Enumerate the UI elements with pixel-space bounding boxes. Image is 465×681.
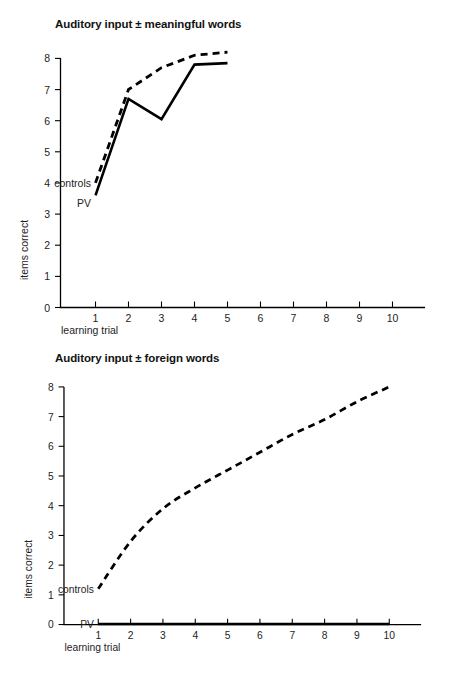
x-tick-10: 10 xyxy=(387,312,399,324)
y-tick-5: 5 xyxy=(48,471,54,482)
y-tick-2: 2 xyxy=(44,239,50,251)
series-controls-bottom xyxy=(98,387,389,589)
y-tick-7: 7 xyxy=(48,412,54,423)
y-tick-4: 4 xyxy=(48,501,54,512)
panel-foreign-words: Auditory input ± foreign words 0 1 2 3 4 xyxy=(0,334,465,681)
y-tick-labels-bottom: 0 1 2 3 4 5 6 7 8 xyxy=(48,382,54,631)
y-tick-1: 1 xyxy=(48,590,54,601)
y-tick-5: 5 xyxy=(44,146,50,158)
x-tick-10: 10 xyxy=(384,630,396,641)
y-axis-label-bottom: items correct xyxy=(23,540,34,599)
x-tick-6: 6 xyxy=(258,312,264,324)
y-tick-7: 7 xyxy=(44,84,50,96)
series-pv-top xyxy=(96,63,228,195)
y-tick-2: 2 xyxy=(48,560,54,571)
y-tick-6: 6 xyxy=(48,441,54,452)
x-tick-6: 6 xyxy=(257,630,263,641)
figure-two-panel-line-charts: Auditory input ± meaningful words 0 1 2 xyxy=(0,0,465,681)
y-tick-8: 8 xyxy=(44,52,50,64)
y-tick-labels-top: 0 1 2 3 4 5 6 7 8 xyxy=(44,52,50,313)
x-tick-7: 7 xyxy=(289,630,295,641)
x-tick-1: 1 xyxy=(93,312,99,324)
plot-bottom: 0 1 2 3 4 5 6 7 8 xyxy=(0,334,465,674)
y-tick-6: 6 xyxy=(44,115,50,127)
series-label-controls-top: controls xyxy=(54,177,91,189)
x-tick-labels-bottom: 1 2 3 4 5 6 7 8 9 10 xyxy=(95,630,395,641)
y-tick-0: 0 xyxy=(48,619,54,630)
y-axis-label-top: items correct xyxy=(18,220,30,280)
axis-lines-top xyxy=(61,58,426,308)
series-label-pv-top: PV xyxy=(77,197,91,209)
x-tick-3: 3 xyxy=(159,312,165,324)
x-tick-3: 3 xyxy=(160,630,166,641)
x-ticks-top xyxy=(96,302,393,308)
series-label-pv-bottom: PV xyxy=(80,619,94,630)
x-tick-4: 4 xyxy=(192,312,198,324)
x-tick-1: 1 xyxy=(95,630,101,641)
y-tick-3: 3 xyxy=(48,530,54,541)
x-tick-8: 8 xyxy=(322,630,328,641)
x-tick-labels-top: 1 2 3 4 5 6 7 8 9 10 xyxy=(93,312,399,324)
x-tick-9: 9 xyxy=(354,630,360,641)
y-tick-1: 1 xyxy=(44,270,50,282)
y-tick-8: 8 xyxy=(48,382,54,393)
x-tick-5: 5 xyxy=(225,630,231,641)
y-tick-4: 4 xyxy=(44,177,50,189)
x-tick-4: 4 xyxy=(192,630,198,641)
x-axis-label-bottom: learning trial xyxy=(64,642,120,653)
plot-top: 0 1 2 3 4 5 6 7 8 xyxy=(0,0,465,340)
x-tick-2: 2 xyxy=(128,630,134,641)
x-tick-5: 5 xyxy=(225,312,231,324)
x-tick-8: 8 xyxy=(324,312,330,324)
panel-meaningful-words: Auditory input ± meaningful words 0 1 2 xyxy=(0,0,465,340)
x-tick-7: 7 xyxy=(291,312,297,324)
y-tick-3: 3 xyxy=(44,208,50,220)
y-tick-0: 0 xyxy=(44,302,50,314)
axis-lines-bottom xyxy=(64,387,421,625)
x-tick-2: 2 xyxy=(126,312,132,324)
series-label-controls-bottom: controls xyxy=(58,584,94,595)
x-tick-9: 9 xyxy=(357,312,363,324)
